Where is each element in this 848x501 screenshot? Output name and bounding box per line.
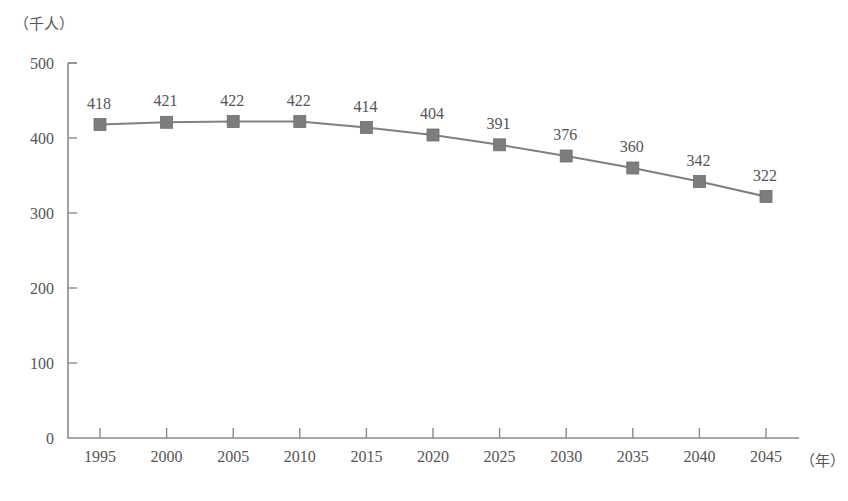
x-tick-label: 2040: [683, 448, 715, 465]
data-point-label: 422: [287, 92, 311, 109]
data-point-marker: [494, 139, 506, 151]
x-tick-label: 2035: [617, 448, 649, 465]
y-tick-label: 0: [46, 430, 54, 447]
y-tick-label: 200: [30, 280, 54, 297]
x-tick-label: 2030: [550, 448, 582, 465]
data-point-marker: [360, 122, 372, 134]
data-point-label: 360: [620, 138, 644, 155]
y-tick-label: 300: [30, 205, 54, 222]
data-point-marker: [294, 116, 306, 128]
data-point-marker: [161, 116, 173, 128]
data-point-label: 376: [553, 126, 577, 143]
x-tick-label: 2015: [350, 448, 382, 465]
x-tick-label: 2025: [484, 448, 516, 465]
data-point-label: 342: [686, 152, 710, 169]
x-tick-label: 2010: [284, 448, 316, 465]
y-tick-label: 400: [30, 130, 54, 147]
data-point-label: 414: [353, 98, 377, 115]
data-point-marker: [227, 116, 239, 128]
y-tick-label: 500: [30, 55, 54, 72]
data-point-marker: [427, 129, 439, 141]
data-point-label: 421: [154, 92, 178, 109]
line-chart: （千人） （年） 0100200300400500 19952000200520…: [0, 0, 848, 501]
y-axis: 0100200300400500: [30, 55, 799, 447]
data-markers: [94, 116, 772, 203]
x-axis: 1995200020052010201520202025203020352040…: [84, 428, 782, 465]
data-point-marker: [693, 176, 705, 188]
x-tick-label: 1995: [84, 448, 116, 465]
x-tick-label: 2045: [750, 448, 782, 465]
data-point-marker: [627, 162, 639, 174]
data-point-marker: [760, 191, 772, 203]
data-point-label: 404: [420, 105, 444, 122]
data-point-marker: [94, 119, 106, 131]
y-tick-label: 100: [30, 355, 54, 372]
chart-canvas: 0100200300400500 19952000200520102015202…: [0, 0, 848, 501]
data-point-label: 322: [753, 167, 777, 184]
x-tick-label: 2000: [151, 448, 183, 465]
x-tick-label: 2005: [217, 448, 249, 465]
data-point-marker: [560, 150, 572, 162]
data-point-label: 391: [487, 115, 511, 132]
data-point-label: 422: [220, 92, 244, 109]
x-tick-label: 2020: [417, 448, 449, 465]
data-point-label: 418: [87, 95, 111, 112]
